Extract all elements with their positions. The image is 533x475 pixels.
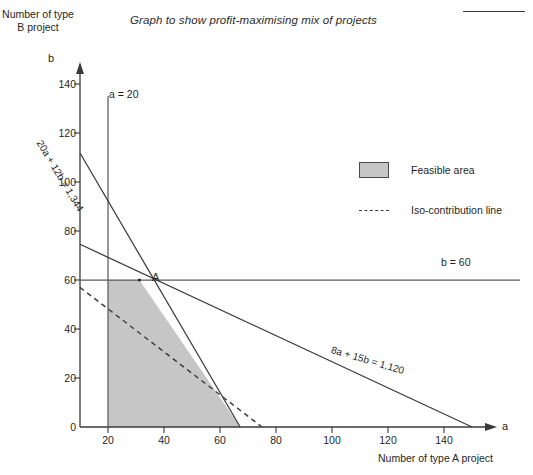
legend-item-feasible-area: Feasible area xyxy=(359,159,502,181)
optimal-point-marker xyxy=(138,278,141,281)
y-axis-arrow-icon xyxy=(76,62,84,74)
annotation-a20: a = 20 xyxy=(109,88,139,100)
legend-label-feasible-area: Feasible area xyxy=(411,164,475,176)
plot-area xyxy=(0,0,533,475)
legend: Feasible area Iso-contribution line xyxy=(359,159,502,221)
dashed-line-swatch-icon xyxy=(359,210,389,211)
annotation-optimal-point: A xyxy=(152,271,159,283)
feasible-area-region xyxy=(108,280,240,427)
feasible-area-swatch-icon xyxy=(359,162,389,178)
annotation-b60: b = 60 xyxy=(441,256,471,268)
legend-item-iso-line: Iso-contribution line xyxy=(359,199,502,221)
legend-label-iso-line: Iso-contribution line xyxy=(411,204,502,216)
x-axis-arrow-icon xyxy=(485,423,497,431)
chart-page: Graph to show profit-maximising mix of p… xyxy=(0,0,533,475)
